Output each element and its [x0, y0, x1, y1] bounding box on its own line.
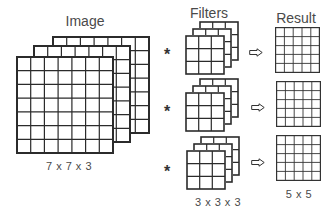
- filter-1-channel-1: [185, 35, 225, 75]
- result-grid-2: [276, 81, 321, 127]
- filters-title: Filters: [190, 5, 228, 21]
- filters-dimensions-label: 3 x 3 x 3: [195, 196, 241, 208]
- convolution-operator-2: *: [164, 103, 170, 121]
- image-dimensions-label: 7 x 7 x 3: [46, 160, 92, 172]
- filter-2-channel-1: [185, 92, 225, 132]
- result-grid-1: [275, 27, 320, 73]
- filter-3-channel-1: [186, 150, 226, 190]
- result-title: Result: [276, 10, 316, 26]
- image-channel-1: [16, 56, 114, 154]
- right-arrow-icon-2: [251, 98, 265, 116]
- right-arrow-icon-1: [249, 43, 263, 61]
- result-dimensions-label: 5 x 5: [286, 188, 312, 200]
- convolution-operator-1: *: [164, 46, 170, 64]
- result-grid-3: [276, 135, 321, 181]
- right-arrow-icon-3: [251, 153, 265, 171]
- convolution-operator-3: *: [164, 163, 170, 181]
- image-title: Image: [66, 13, 105, 29]
